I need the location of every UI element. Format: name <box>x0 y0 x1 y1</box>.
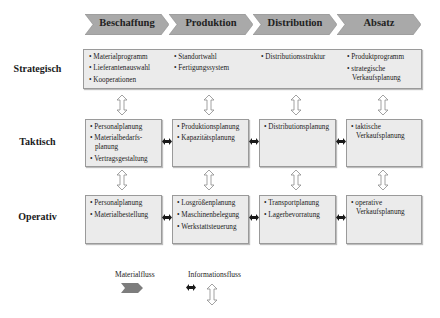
taktisch-produktion-box: • Produktionsplanung • Kapazitätsplanung <box>172 119 249 167</box>
list-item: • Distributionsstruktur <box>261 53 325 62</box>
list-item: • Vertragsgestaltung <box>90 155 148 164</box>
row-label-strategisch: Strategisch <box>0 63 75 74</box>
list-item-continuation: Verkaufsplanung <box>356 132 405 141</box>
horizontal-info-arrow-icon <box>249 138 259 145</box>
list-item: • Distributionsplanung <box>264 123 329 132</box>
material-flow-legend-icon <box>121 283 143 293</box>
vertical-info-arrow-icon <box>116 170 128 190</box>
stage-produktion: Produktion <box>169 14 253 35</box>
vertical-info-arrow-icon <box>116 95 128 115</box>
info-flow-horizontal-legend-icon <box>186 284 196 291</box>
taktisch-absatz-box: • taktische Verkaufsplanung <box>346 119 422 167</box>
stage-label: Absatz <box>337 17 421 28</box>
row-label-operativ: Operativ <box>0 211 75 222</box>
stage-distribution: Distribution <box>253 14 337 35</box>
operativ-distribution-box: • Transportplanung • Lagerbevorratung <box>259 195 336 244</box>
horizontal-info-arrow-icon <box>336 138 346 145</box>
horizontal-info-arrow-icon <box>162 214 172 221</box>
list-item: • Materialbestellung <box>90 211 148 220</box>
list-item: • strategische <box>347 65 385 74</box>
list-item-continuation: planung <box>95 143 118 152</box>
vertical-info-arrow-icon <box>203 170 215 190</box>
horizontal-info-arrow-icon <box>249 214 259 221</box>
stage-absatz: Absatz <box>337 14 421 35</box>
stage-label: Distribution <box>253 17 337 28</box>
stage-label: Produktion <box>169 17 253 28</box>
list-item: • Produktprogramm <box>347 53 404 62</box>
list-item: • Transportplanung <box>264 199 319 208</box>
list-item: • Werkstattsteuerung <box>177 223 237 232</box>
taktisch-beschaffung-box: • Personalplanung • Materialbedarfs- pla… <box>85 119 162 167</box>
horizontal-info-arrow-icon <box>162 138 172 145</box>
list-item: • Standortwahl <box>174 53 217 62</box>
list-item: • Losgrößenplanung <box>177 199 235 208</box>
list-item: • Lieferantenauswahl <box>89 64 150 73</box>
vertical-info-arrow-icon <box>290 170 302 190</box>
list-item: • Produktionsplanung <box>177 123 239 132</box>
operativ-absatz-box: • operative Verkaufsplanung <box>346 195 422 244</box>
legend-material-label: Materialfluss <box>115 270 155 279</box>
list-item-continuation: Verkaufsplanung <box>352 74 401 83</box>
strategisch-box: • Materialprogramm • Lieferantenauswahl … <box>83 49 422 89</box>
list-item: • Personalplanung <box>90 123 142 132</box>
list-item: • Maschinenbelegung <box>177 211 239 220</box>
list-item: • Materialprogramm <box>89 53 148 62</box>
vertical-info-arrow-icon <box>377 170 389 190</box>
stage-beschaffung: Beschaffung <box>85 14 169 35</box>
row-label-taktisch: Taktisch <box>0 136 75 147</box>
horizontal-info-arrow-icon <box>336 214 346 221</box>
list-item: • operative <box>351 199 382 208</box>
taktisch-distribution-box: • Distributionsplanung <box>259 119 336 167</box>
list-item: • Fertigungssystem <box>174 64 229 73</box>
list-item: • Kooperationen <box>89 76 136 85</box>
operativ-produktion-box: • Losgrößenplanung • Maschinenbelegung •… <box>172 195 249 244</box>
list-item: • Lagerbevorratung <box>264 211 320 220</box>
list-item: • Personalplanung <box>90 199 142 208</box>
list-item-continuation: Verkaufsplanung <box>356 208 405 217</box>
info-flow-vertical-legend-icon <box>206 284 218 305</box>
vertical-info-arrow-icon <box>290 95 302 115</box>
list-item: • Materialbedarfs- <box>90 134 142 143</box>
vertical-info-arrow-icon <box>203 95 215 115</box>
vertical-info-arrow-icon <box>377 95 389 115</box>
list-item: • taktische <box>351 123 381 132</box>
stage-label: Beschaffung <box>85 17 169 28</box>
list-item: • Kapazitätsplanung <box>177 134 235 143</box>
operativ-beschaffung-box: • Personalplanung • Materialbestellung <box>85 195 162 244</box>
legend-info-label: Informationsfluss <box>188 270 241 279</box>
